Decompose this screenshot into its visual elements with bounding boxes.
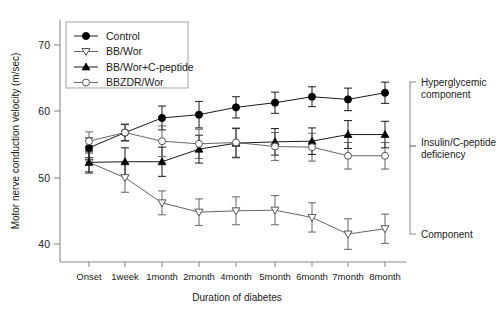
- x-axis: Onset 1week 1month 2month 4month 5month …: [60, 262, 406, 303]
- chart-figure: 70 60 50 40 Motor nerve conduction veloc…: [0, 0, 500, 319]
- data-point-1-3: [195, 209, 203, 216]
- x-tick-label-onset: Onset: [76, 271, 102, 282]
- legend-marker-filled-circle: [82, 32, 89, 39]
- y-axis-title: Motor nerve conduction velocity (m/sec): [10, 53, 21, 230]
- data-point-1-7: [344, 231, 352, 238]
- data-point-3-0: [86, 138, 93, 145]
- annotation-insulin-line1: Insulin/C-peptide: [421, 137, 496, 148]
- legend: ControlBB/WorBB/Wor+C-peptideBBZDR/Wor: [66, 22, 194, 88]
- data-point-2-1: [121, 158, 129, 165]
- data-point-0-4: [232, 104, 239, 111]
- x-tick-label-8month: 8month: [369, 271, 401, 282]
- y-tick-label-50: 50: [38, 172, 50, 184]
- data-point-2-7: [344, 131, 352, 138]
- data-point-0-0: [85, 144, 92, 151]
- bracket-insulin-deficiency: [410, 146, 416, 234]
- x-tick-label-2month: 2month: [183, 271, 215, 282]
- series-errorbars-2: [85, 121, 389, 177]
- data-point-3-4: [233, 139, 240, 146]
- series-line-1: [89, 162, 385, 234]
- y-tick-label-60: 60: [38, 105, 50, 117]
- data-point-3-5: [272, 143, 279, 150]
- legend-marker-open-circle: [83, 79, 90, 86]
- plot-data-layer: [85, 82, 389, 249]
- x-tick-label-7month: 7month: [332, 271, 364, 282]
- data-point-2-8: [381, 131, 389, 138]
- data-point-3-8: [382, 152, 389, 159]
- data-point-1-1: [121, 175, 129, 182]
- annotation-brackets: Hyperglycemic component Insulin/C-peptid…: [410, 77, 496, 240]
- legend-label-3: BBZDR/Wor: [106, 76, 164, 88]
- data-point-1-6: [308, 214, 316, 221]
- x-axis-title: Duration of diabetes: [192, 292, 282, 303]
- data-point-3-3: [196, 140, 203, 147]
- y-axis: 70 60 50 40 Motor nerve conduction veloc…: [10, 20, 60, 262]
- data-point-0-5: [271, 99, 278, 106]
- legend-label-2: BB/Wor+C-peptide: [106, 61, 194, 73]
- data-point-0-8: [381, 89, 388, 96]
- data-point-3-2: [159, 138, 166, 145]
- data-point-0-7: [344, 96, 351, 103]
- legend-label-1: BB/Wor: [106, 45, 142, 57]
- annotation-hyperglycemic-line2: component: [421, 89, 471, 100]
- annotation-insulin-line2: deficiency: [421, 149, 465, 160]
- x-tick-label-1week: 1week: [111, 271, 139, 282]
- data-point-0-6: [308, 93, 315, 100]
- data-point-0-2: [158, 114, 165, 121]
- data-point-3-7: [345, 152, 352, 159]
- bracket-hyperglycemic: [410, 82, 416, 146]
- data-point-3-1: [122, 129, 129, 136]
- x-tick-label-5month: 5month: [259, 271, 291, 282]
- x-tick-label-6month: 6month: [296, 271, 328, 282]
- chart-svg: 70 60 50 40 Motor nerve conduction veloc…: [0, 0, 500, 319]
- x-tick-label-4month: 4month: [220, 271, 252, 282]
- legend-label-0: Control: [106, 30, 140, 42]
- data-point-3-6: [309, 144, 316, 151]
- x-tick-label-1month: 1month: [146, 271, 178, 282]
- annotation-component: Component: [421, 229, 473, 240]
- series-errorbars-1: [85, 153, 389, 249]
- data-point-0-3: [195, 111, 202, 118]
- annotation-hyperglycemic-line1: Hyperglycemic: [421, 77, 487, 88]
- y-tick-label-40: 40: [38, 238, 50, 250]
- y-tick-label-70: 70: [38, 39, 50, 51]
